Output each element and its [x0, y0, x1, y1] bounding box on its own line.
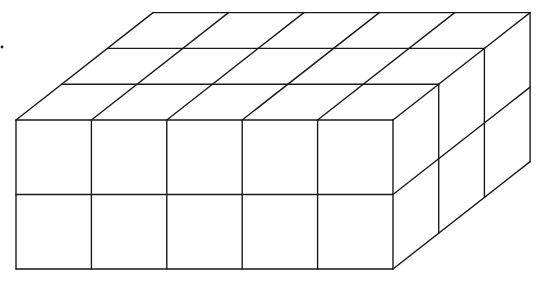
top-depth-edge [167, 13, 304, 120]
cube-prism-diagram [0, 0, 540, 285]
stray-dot-marker [1, 46, 4, 49]
prism-edges [16, 13, 530, 269]
top-depth-edge [242, 13, 379, 120]
top-depth-edge [318, 13, 455, 120]
top-depth-edge [91, 13, 228, 120]
top-depth-edge [16, 13, 153, 120]
